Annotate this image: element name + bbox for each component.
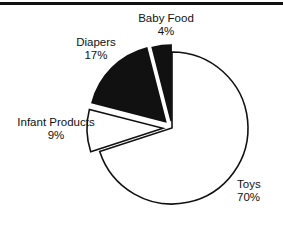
slice-label-toys-name: Toys: [237, 178, 261, 191]
pie-chart-figure: Baby Food 4% Diapers 17% Infant Products…: [0, 0, 283, 225]
slice-label-baby-food-name: Baby Food: [138, 12, 194, 25]
slice-label-infant-products-percent: 9%: [17, 129, 94, 142]
slice-label-baby-food-percent: 4%: [138, 25, 194, 38]
slice-label-infant-products: Infant Products 9%: [17, 116, 94, 141]
slice-label-infant-products-name: Infant Products: [17, 116, 94, 129]
slice-label-diapers: Diapers 17%: [76, 36, 116, 61]
slice-label-diapers-percent: 17%: [76, 49, 116, 62]
slice-label-toys-percent: 70%: [237, 191, 261, 204]
slice-label-diapers-name: Diapers: [76, 36, 116, 49]
pie-slice-group: [87, 45, 248, 204]
slice-label-toys: Toys 70%: [237, 178, 261, 203]
slice-label-baby-food: Baby Food 4%: [138, 12, 194, 37]
